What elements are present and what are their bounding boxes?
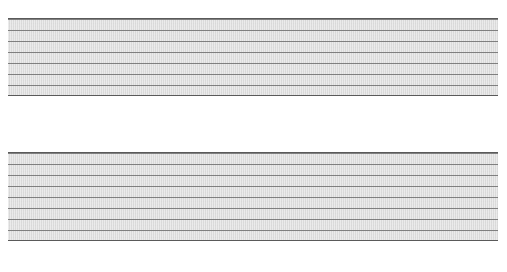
chart-title-clipped bbox=[0, 0, 507, 7]
bottom-gridlines bbox=[8, 153, 498, 240]
bottom-plot-area bbox=[8, 152, 498, 241]
top-plot-area bbox=[8, 18, 498, 96]
chart-canvas bbox=[0, 0, 507, 272]
top-gridlines bbox=[8, 19, 498, 95]
